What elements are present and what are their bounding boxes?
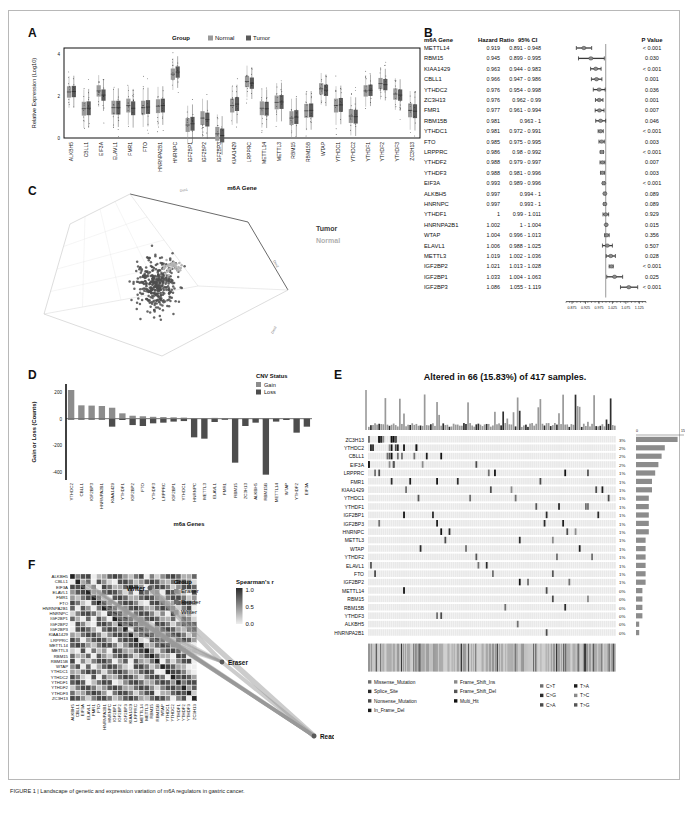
- panel-f-heatmap-cell: [181, 664, 186, 669]
- panel-a-outlier: [206, 94, 207, 95]
- panel-e-cell-empty: [546, 621, 548, 628]
- panel-a-outlier: [276, 126, 277, 127]
- panel-e-cell-empty: [403, 528, 405, 535]
- panel-f-heatmap-cell: [165, 654, 170, 659]
- panel-e-cell-empty: [457, 486, 459, 493]
- panel-c-point-tumor: [144, 280, 147, 283]
- panel-e-cell-empty: [579, 570, 581, 577]
- panel-f-heatmap-cell: [102, 632, 107, 637]
- panel-e-cell-empty: [521, 570, 523, 577]
- panel-e-cell-empty: [438, 596, 440, 603]
- panel-e-cell-empty: [606, 512, 608, 519]
- panel-b-hazard-ratio: 0.997: [487, 191, 501, 197]
- panel-f-heatmap-cell: [150, 664, 155, 669]
- panel-f-col-label: EIF3A: [80, 704, 85, 716]
- panel-e-cell-empty: [436, 486, 438, 493]
- panel-e-cell-empty: [420, 461, 422, 468]
- panel-e-cell-empty: [397, 537, 399, 544]
- panel-e-cell-empty: [469, 554, 471, 561]
- legend-label-loss: Loss: [264, 389, 276, 395]
- panel-e-cell-empty: [556, 537, 558, 544]
- panel-e-cell-empty: [455, 520, 457, 527]
- panel-e-cell-empty: [457, 629, 459, 636]
- panel-e-cell-empty: [612, 495, 614, 502]
- panel-e-cell-empty: [424, 537, 426, 544]
- panel-e-cell-empty: [523, 612, 525, 619]
- panel-e-cell-mutation: [465, 545, 467, 552]
- panel-e-gene-percent: 1%: [619, 580, 625, 585]
- panel-e-legend-swatch: [368, 690, 371, 693]
- panel-e-cell-empty: [566, 478, 568, 485]
- panel-e-cell-empty: [438, 520, 440, 527]
- panel-e-cell-empty: [610, 579, 612, 586]
- panel-e-cell-empty: [403, 579, 405, 586]
- panel-e-cell-empty: [393, 453, 395, 460]
- panel-e-cell-empty: [395, 512, 397, 519]
- panel-e-tmb-bar: [509, 424, 511, 430]
- panel-e-cell-empty: [393, 528, 395, 535]
- panel-e-cell-empty: [486, 470, 488, 477]
- panel-e-gene-percent: 1%: [619, 572, 625, 577]
- panel-c-point-tumor: [151, 295, 154, 298]
- panel-c-point-tumor: [174, 300, 177, 303]
- panel-e-cell-empty: [401, 520, 403, 527]
- panel-c-point-tumor: [156, 292, 159, 295]
- panel-e-bottom-strip-bar: [566, 644, 567, 672]
- panel-e-summary-bar: [636, 538, 646, 543]
- panel-e-cell-empty: [451, 453, 453, 460]
- panel-c-point-tumor: [145, 298, 148, 301]
- panel-e-cell-empty: [552, 495, 554, 502]
- panel-b-point-estimate: [600, 150, 604, 153]
- panel-f-heatmap-cell: [70, 595, 75, 600]
- panel-e-cell-empty: [368, 503, 370, 510]
- panel-a-outlier: [187, 120, 188, 121]
- panel-e-cell-empty: [418, 612, 420, 619]
- panel-a-outlier: [380, 92, 381, 93]
- panel-e-cell-empty: [509, 579, 511, 586]
- panel-c-point-tumor: [140, 293, 143, 296]
- panel-e-cell-mutation: [490, 486, 492, 493]
- panel-e-summary-bar: [636, 588, 642, 593]
- panel-e-cell-empty: [612, 629, 614, 636]
- panel-e-cell-empty: [515, 520, 517, 527]
- panel-e-cell-empty: [554, 562, 556, 569]
- panel-e-bottom-strip-bar: [395, 644, 396, 672]
- panel-e-cell-empty: [440, 461, 442, 468]
- panel-f-heatmap-cell: [144, 696, 149, 701]
- panel-e-cell-empty: [604, 436, 606, 443]
- panel-e-cell-empty: [546, 579, 548, 586]
- panel-e-cell-empty: [378, 486, 380, 493]
- panel-e-cell-empty: [382, 562, 384, 569]
- panel-e-cell-empty: [546, 495, 548, 502]
- panel-e-cell-empty: [486, 478, 488, 485]
- panel-e-cell-empty: [542, 604, 544, 611]
- panel-f-row-label: YTHDF2: [51, 685, 68, 690]
- panel-e-cell-empty: [577, 444, 579, 451]
- panel-f-row-label: METTL14: [49, 643, 68, 648]
- panel-e-cell-empty: [513, 528, 515, 535]
- panel-f-row-label: YTHDF3: [51, 691, 68, 696]
- panel-e-cell-empty: [606, 461, 608, 468]
- panel-e-cell-empty: [393, 570, 395, 577]
- panel-e-cell-empty: [469, 503, 471, 510]
- panel-e-cell-empty: [372, 453, 374, 460]
- panel-e-cell-empty: [418, 453, 420, 460]
- panel-e-cell-empty: [556, 495, 558, 502]
- panel-e-bottom-strip-bar: [411, 644, 412, 672]
- panel-e-cell-mutation: [591, 554, 593, 561]
- panel-f-heatmap-cell: [102, 664, 107, 669]
- panel-e-cell-empty: [428, 587, 430, 594]
- panel-e-cell-empty: [577, 461, 579, 468]
- panel-e-cell-empty: [602, 444, 604, 451]
- panel-f-heatmap-cell: [118, 691, 123, 696]
- panel-e-cell-empty: [494, 629, 496, 636]
- panel-e-cell-empty: [529, 545, 531, 552]
- panel-d-xtick: IGF2BP2: [130, 482, 135, 501]
- panel-e-cell-empty: [490, 453, 492, 460]
- panel-e-cell-empty: [517, 604, 519, 611]
- panel-e-cell-empty: [544, 495, 546, 502]
- panel-a-outlier: [414, 104, 415, 105]
- panel-e-cell-empty: [585, 495, 587, 502]
- panel-e-cell-empty: [496, 453, 498, 460]
- panel-b-point-estimate: [594, 67, 598, 70]
